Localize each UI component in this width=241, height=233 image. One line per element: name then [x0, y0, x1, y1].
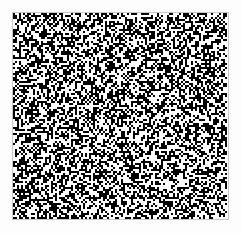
- barcode-noise-matrix[interactable]: [13, 13, 228, 219]
- page-root: [0, 0, 241, 233]
- barcode-pattern-frame[interactable]: [12, 12, 229, 220]
